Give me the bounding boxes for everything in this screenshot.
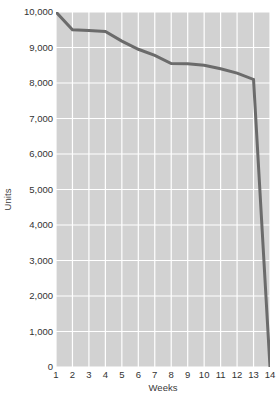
x-tick-label: 14 [258,369,280,381]
y-tick-label: 6,000 [10,149,53,159]
y-axis-tick-labels: 01,0002,0003,0004,0005,0006,0007,0008,00… [10,0,53,399]
plot-area [56,12,270,367]
y-tick-label: 4,000 [10,220,53,230]
y-tick-label: 7,000 [10,114,53,124]
y-tick-label: 9,000 [10,43,53,53]
x-axis-title: Weeks [56,382,270,394]
y-tick-label: 5,000 [10,185,53,195]
x-axis-tick-labels: 1234567891011121314 [0,369,280,383]
y-tick-label: 10,000 [10,7,53,17]
y-tick-label: 3,000 [10,256,53,266]
y-tick-label: 2,000 [10,291,53,301]
plot-svg [56,12,270,367]
line-chart: Units 01,0002,0003,0004,0005,0006,0007,0… [0,0,280,399]
grid-lines [56,12,270,367]
y-tick-label: 1,000 [10,327,53,337]
y-tick-label: 8,000 [10,78,53,88]
